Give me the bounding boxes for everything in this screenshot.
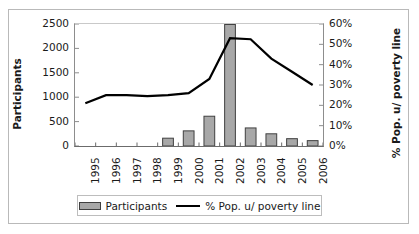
legend-label-participants: Participants <box>106 200 168 212</box>
x-axis-tick-label: 2003 <box>255 157 267 184</box>
y-axis-left-tick-label: 1000 <box>35 90 69 102</box>
y-axis-left-title: Participants <box>11 44 23 144</box>
y-axis-left-tick-label: 0 <box>35 139 69 151</box>
x-axis-tick-label: 1999 <box>172 157 184 184</box>
poverty-line-series <box>85 38 312 103</box>
y-axis-right-title: % Pop. u/ poverty line <box>390 13 402 173</box>
bar-2003 <box>245 128 256 146</box>
chart-container: Participants % Pop. u/ poverty line 0500… <box>0 0 419 234</box>
bar-2002 <box>225 24 236 146</box>
plot-svg <box>75 24 323 146</box>
x-axis-tick-label: 2000 <box>193 157 205 184</box>
x-axis-tick-label: 2005 <box>296 157 308 184</box>
x-axis-tick-label: 1996 <box>110 157 122 184</box>
y-axis-right-tick-label: 10% <box>329 119 363 131</box>
plot-area <box>74 23 324 147</box>
bar-swatch-icon <box>79 202 101 210</box>
y-axis-right-tick-label: 20% <box>329 98 363 110</box>
x-axis-tick-label: 2001 <box>213 157 225 184</box>
legend-label-poverty-line: % Pop. u/ poverty line <box>205 200 320 212</box>
y-axis-left-tick-label: 1500 <box>35 66 69 78</box>
bar-2001 <box>204 116 215 146</box>
y-axis-right-tick-label: 40% <box>329 58 363 70</box>
bar-2005 <box>287 139 298 146</box>
bar-2006 <box>307 141 318 146</box>
y-axis-left-tick-label: 2000 <box>35 41 69 53</box>
legend-item-participants: Participants <box>79 200 168 212</box>
bar-1999 <box>163 138 174 146</box>
y-axis-left-tick-label: 2500 <box>35 17 69 29</box>
x-axis-tick-label: 2002 <box>234 157 246 184</box>
x-axis-tick-label: 1995 <box>89 157 101 184</box>
legend-item-poverty-line: % Pop. u/ poverty line <box>176 200 320 212</box>
y-axis-right-tick-label: 60% <box>329 17 363 29</box>
x-axis-tick-label: 1997 <box>131 157 143 184</box>
y-axis-right-tick-label: 0% <box>329 139 363 151</box>
bar-2004 <box>266 134 277 146</box>
y-axis-right-tick-label: 50% <box>329 37 363 49</box>
line-swatch-icon <box>176 205 200 207</box>
x-axis-tick-label: 1998 <box>151 157 163 184</box>
x-axis-tick-label: 2004 <box>275 157 287 184</box>
x-axis-tick-label: 2006 <box>317 157 329 184</box>
y-axis-left-tick-label: 500 <box>35 115 69 127</box>
bar-2000 <box>183 131 194 146</box>
chart-legend: Participants % Pop. u/ poverty line <box>77 195 322 216</box>
y-axis-right-tick-label: 30% <box>329 78 363 90</box>
